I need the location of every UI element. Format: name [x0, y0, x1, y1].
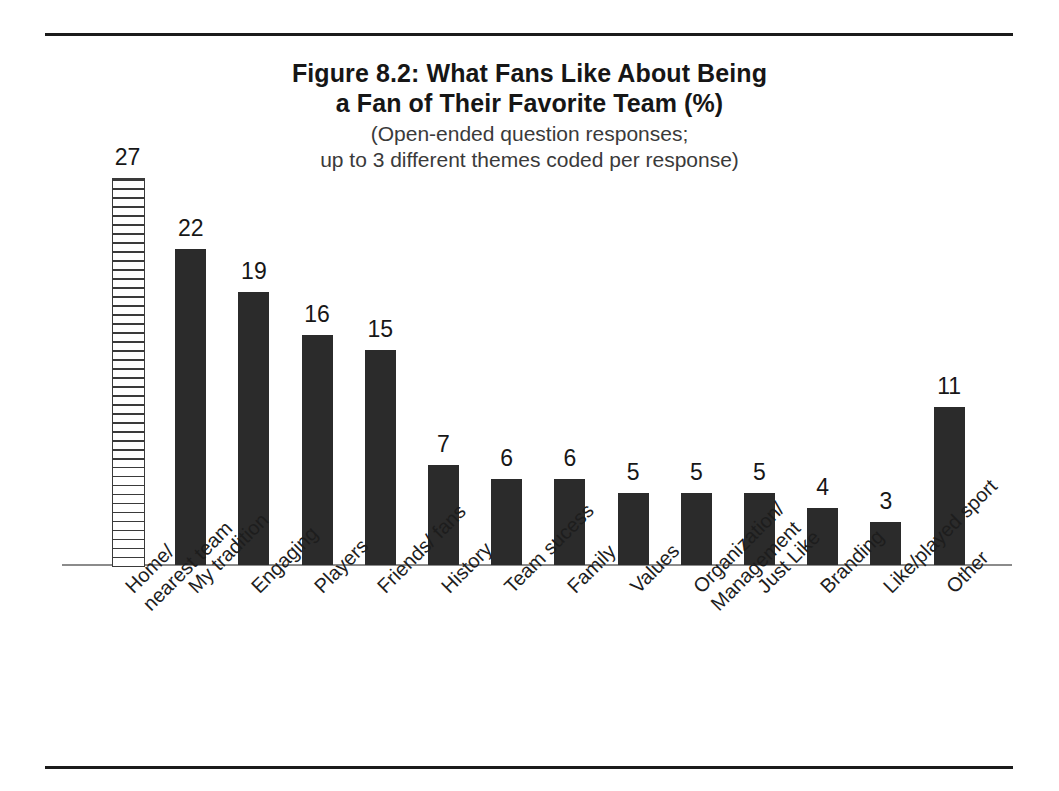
bar-value-label-2: 19 — [224, 260, 284, 283]
bar-9 — [681, 493, 712, 565]
bar-value-label-13: 11 — [919, 375, 979, 398]
bar-value-label-3: 16 — [287, 303, 347, 326]
bar-value-label-9: 5 — [666, 461, 726, 484]
bar-value-label-0: 27 — [98, 146, 158, 169]
bar-value-label-7: 6 — [540, 447, 600, 470]
bar-value-label-8: 5 — [603, 461, 663, 484]
bar-value-label-12: 3 — [856, 490, 916, 513]
bar-value-label-11: 4 — [793, 476, 853, 499]
bar-8 — [618, 493, 649, 565]
bar-value-label-1: 22 — [161, 217, 221, 240]
plot-area: 27221916157665554311 Home/nearest teamMy… — [0, 0, 1059, 791]
bar-value-label-5: 7 — [414, 433, 474, 456]
bar-value-label-4: 15 — [350, 318, 410, 341]
figure-container: Figure 8.2: What Fans Like About Being a… — [0, 0, 1059, 791]
bar-value-label-10: 5 — [730, 461, 790, 484]
bar-4 — [365, 350, 396, 565]
bar-value-label-6: 6 — [477, 447, 537, 470]
bar-0 — [112, 178, 145, 567]
